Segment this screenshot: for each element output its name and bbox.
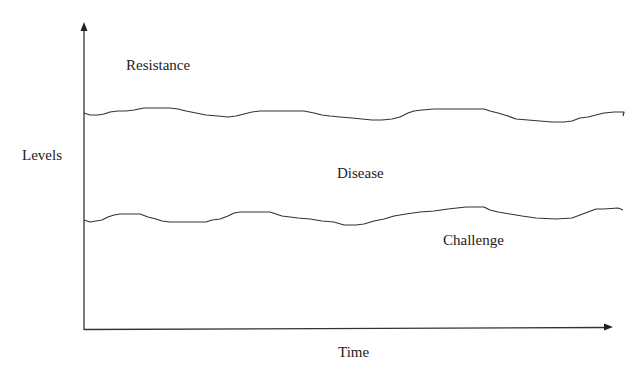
- y-axis-label: Levels: [22, 148, 62, 163]
- x-axis: [84, 328, 606, 330]
- upper-threshold-line: [84, 108, 624, 122]
- resistance-label: Resistance: [126, 58, 190, 73]
- x-axis-arrow-icon: [604, 324, 613, 331]
- diagram-canvas: [0, 0, 641, 371]
- x-axis-label: Time: [338, 345, 369, 360]
- y-axis-arrow-icon: [81, 22, 88, 31]
- disease-label: Disease: [337, 166, 384, 181]
- lower-threshold-line: [84, 207, 623, 225]
- challenge-label: Challenge: [443, 233, 504, 248]
